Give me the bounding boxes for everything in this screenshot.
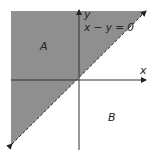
line-equation-label: x − y = 0	[83, 21, 134, 33]
y-axis-label: y	[83, 8, 91, 21]
region-a-label: A	[39, 40, 48, 53]
x-axis-label: x	[139, 64, 147, 77]
inequality-diagram: y x x − y = 0 A B	[0, 0, 157, 158]
region-b-label: B	[108, 111, 116, 124]
